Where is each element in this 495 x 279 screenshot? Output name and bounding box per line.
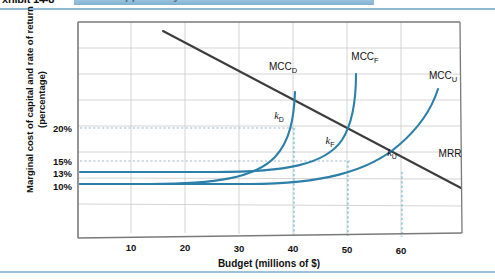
x-tick-label-30: 30 bbox=[234, 243, 245, 254]
bottom-divider bbox=[0, 271, 495, 273]
x-tick-label-50: 50 bbox=[342, 244, 353, 255]
x-tick-label-20: 20 bbox=[180, 242, 191, 253]
plot-right-border bbox=[460, 22, 462, 233]
x-tick-label-40: 40 bbox=[288, 243, 299, 254]
y-tick-label-13: 13% bbox=[53, 168, 73, 179]
y-tick-label-10: 10% bbox=[53, 181, 73, 192]
x-tick-label-60: 60 bbox=[396, 245, 407, 256]
y-tick-label-20: 20% bbox=[53, 123, 73, 134]
y-tick-label-15: 15% bbox=[53, 156, 73, 167]
chart-canvas: 20% 15% 13% 10% 10 20 30 40 50 60 MCCD M… bbox=[0, 0, 495, 279]
x-tick-label-10: 10 bbox=[126, 242, 137, 253]
plot-background bbox=[78, 22, 460, 234]
mrr-label: MRR bbox=[439, 148, 462, 159]
